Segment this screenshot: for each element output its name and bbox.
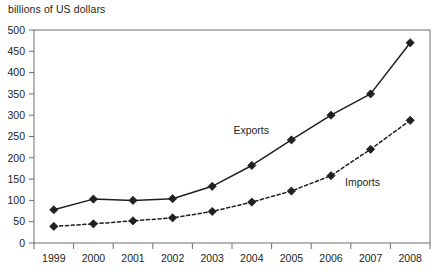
data-point-marker xyxy=(89,195,97,203)
y-axis-tick-label: 0 xyxy=(19,237,25,249)
y-axis-tick-label: 450 xyxy=(7,45,25,57)
data-point-marker xyxy=(50,222,58,230)
x-axis-tick-label: 2006 xyxy=(319,252,343,264)
data-point-marker xyxy=(367,145,375,153)
series-line-imports xyxy=(54,120,410,226)
y-axis-tick-label: 350 xyxy=(7,88,25,100)
x-axis-tick-label: 2007 xyxy=(359,252,383,264)
x-axis: 1999200020012002200320042005200620072008 xyxy=(34,243,430,264)
x-axis-tick-label: 2002 xyxy=(161,252,185,264)
data-point-marker xyxy=(129,196,137,204)
data-point-marker xyxy=(248,161,256,169)
data-point-marker xyxy=(406,116,414,124)
data-point-marker xyxy=(169,195,177,203)
data-point-marker xyxy=(287,136,295,144)
x-axis-tick-label: 2004 xyxy=(240,252,264,264)
y-axis: 050100150200250300350400450500 xyxy=(7,24,34,249)
data-point-marker xyxy=(248,198,256,206)
series-imports xyxy=(50,116,415,230)
x-axis-tick-label: 2000 xyxy=(82,252,106,264)
x-axis-tick-label: 2001 xyxy=(121,252,145,264)
data-point-marker xyxy=(50,206,58,214)
data-point-marker xyxy=(208,207,216,215)
chart-container: billions of US dollars 05010015020025030… xyxy=(0,0,441,280)
data-point-marker xyxy=(327,172,335,180)
line-chart-plot: 0501001502002503003504004505001999200020… xyxy=(0,0,441,280)
y-axis-tick-label: 100 xyxy=(7,194,25,206)
data-point-marker xyxy=(129,217,137,225)
data-point-marker xyxy=(327,111,335,119)
x-axis-tick-label: 2008 xyxy=(399,252,423,264)
y-axis-tick-label: 300 xyxy=(7,109,25,121)
y-axis-tick-label: 400 xyxy=(7,66,25,78)
series-annotation-imports: Imports xyxy=(345,176,380,188)
y-axis-tick-label: 200 xyxy=(7,152,25,164)
x-axis-tick-label: 2003 xyxy=(201,252,225,264)
x-axis-tick-label: 2005 xyxy=(280,252,304,264)
data-point-marker xyxy=(287,187,295,195)
data-point-marker xyxy=(89,220,97,228)
y-axis-tick-label: 500 xyxy=(7,24,25,36)
y-axis-tick-label: 150 xyxy=(7,173,25,185)
y-axis-tick-label: 50 xyxy=(13,215,25,227)
series-annotation-exports: Exports xyxy=(233,124,269,136)
y-axis-tick-label: 250 xyxy=(7,130,25,142)
data-point-marker xyxy=(169,214,177,222)
plot-area-border xyxy=(34,30,430,243)
data-point-marker xyxy=(208,182,216,190)
x-axis-tick-label: 1999 xyxy=(42,252,66,264)
